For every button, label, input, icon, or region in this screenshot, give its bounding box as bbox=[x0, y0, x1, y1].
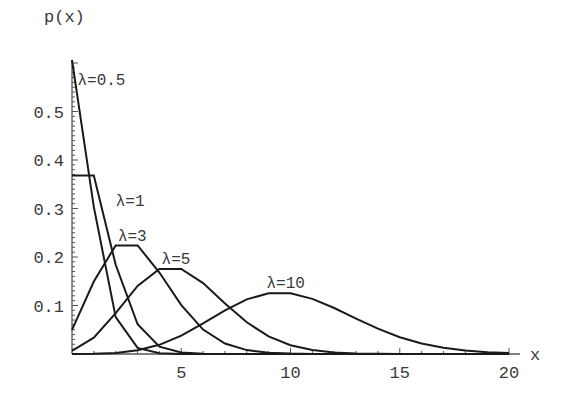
series-label: λ=1 bbox=[116, 193, 145, 211]
series-label: λ=0.5 bbox=[77, 72, 125, 90]
y-tick-label: 0.5 bbox=[33, 104, 64, 123]
x-tick-label: 10 bbox=[280, 364, 300, 383]
poisson-distribution-chart: 51015200.10.20.30.40.5 λ=0.5λ=1λ=3λ=5λ=1… bbox=[0, 0, 564, 402]
x-tick-label: 5 bbox=[176, 364, 186, 383]
series-label: λ=5 bbox=[162, 251, 191, 269]
y-tick-label: 0.1 bbox=[33, 298, 64, 317]
x-tick-label: 20 bbox=[499, 364, 519, 383]
curve-3 bbox=[72, 245, 509, 354]
y-axis-title: p(x) bbox=[44, 8, 85, 27]
series-labels: λ=0.5λ=1λ=3λ=5λ=10 bbox=[77, 72, 304, 293]
series-label: λ=3 bbox=[118, 228, 147, 246]
x-axis-title: x bbox=[530, 346, 540, 365]
y-tick-label: 0.3 bbox=[33, 201, 64, 220]
x-tick-label: 15 bbox=[390, 364, 410, 383]
y-tick-label: 0.4 bbox=[33, 152, 64, 171]
series-label: λ=10 bbox=[266, 275, 304, 293]
y-tick-label: 0.2 bbox=[33, 249, 64, 268]
